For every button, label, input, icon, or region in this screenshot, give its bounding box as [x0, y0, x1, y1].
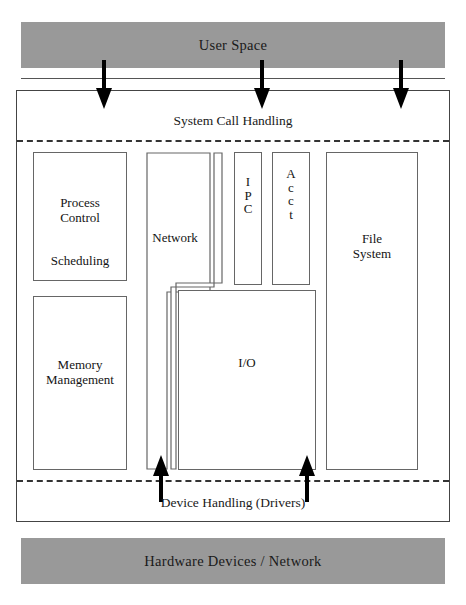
block-io: I/O [178, 290, 316, 470]
acct-letter-4: t [273, 208, 309, 222]
acct-letter-1: A [273, 167, 309, 181]
ipc-label: I P C [235, 175, 261, 216]
block-process-control: Process Control Scheduling [33, 152, 127, 281]
block-memory-management: Memory Management [33, 296, 127, 470]
acct-label: A c c t [273, 167, 309, 222]
system-call-handling-label: System Call Handling [16, 113, 450, 129]
device-handling-dashed-divider [17, 480, 449, 482]
hardware-band: Hardware Devices / Network [21, 538, 445, 584]
user-space-divider-rule [21, 78, 445, 79]
device-handling-label: Device Handling (Drivers) [16, 495, 450, 511]
hardware-label: Hardware Devices / Network [144, 553, 321, 570]
user-space-label: User Space [199, 37, 268, 54]
block-ipc: I P C [234, 152, 262, 285]
syscall-arrow-left [95, 60, 113, 110]
system-call-dashed-divider [17, 140, 449, 142]
syscall-arrow-center [253, 60, 271, 110]
process-control-label: Process Control [34, 195, 126, 226]
os-architecture-diagram: User Space System Call Handling Process … [0, 0, 466, 605]
block-acct: A c c t [272, 152, 310, 285]
ipc-letter-3: C [235, 202, 261, 216]
file-system-label: File System [327, 231, 417, 262]
block-file-system: File System [326, 152, 418, 470]
acct-letter-3: c [273, 194, 309, 208]
syscall-arrow-right [392, 60, 410, 110]
ipc-letter-1: I [235, 175, 261, 189]
ipc-letter-2: P [235, 189, 261, 203]
memory-management-label: Memory Management [34, 357, 126, 388]
io-label: I/O [179, 355, 315, 370]
acct-letter-2: c [273, 181, 309, 195]
user-space-band: User Space [21, 22, 445, 68]
network-label: Network [140, 230, 210, 245]
scheduling-label: Scheduling [34, 253, 126, 268]
